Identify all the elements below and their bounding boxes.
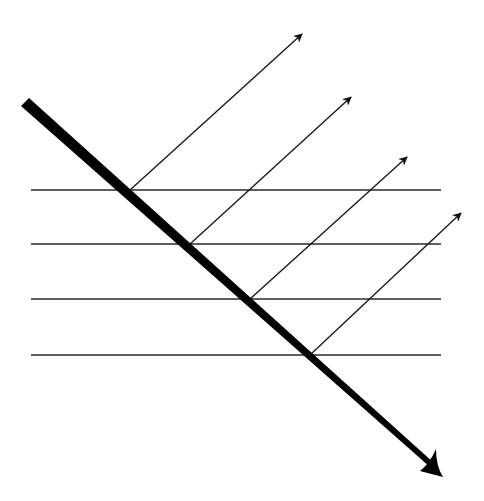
horizontal-lines xyxy=(31,190,441,355)
emitted-arrow-1 xyxy=(130,34,302,190)
emitted-arrow-2 xyxy=(190,97,351,244)
emitted-arrow-4 xyxy=(310,213,461,355)
main-arrow xyxy=(21,98,443,477)
emitted-arrow-3 xyxy=(250,157,407,299)
diagram-canvas xyxy=(0,0,484,501)
emitted-arrows xyxy=(130,34,461,355)
arrowhead-icon xyxy=(420,449,443,477)
main-arrow-shaft xyxy=(21,98,434,467)
